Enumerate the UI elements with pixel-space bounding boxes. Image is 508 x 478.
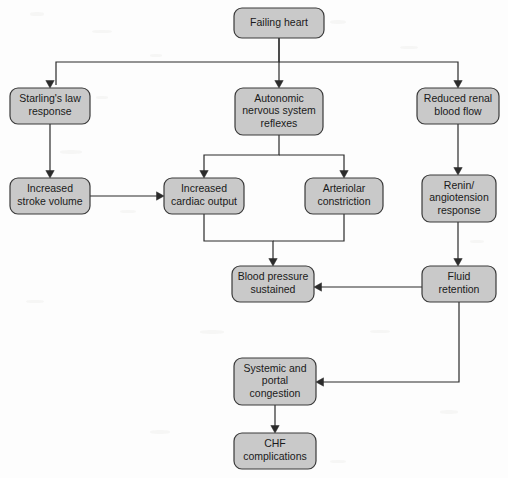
node-label-line: stroke volume (17, 195, 83, 207)
flowchart-canvas: Failing heartStarling's lawresponseAuton… (0, 0, 508, 478)
node-label-line: sustained (251, 283, 296, 295)
node-autonomic-nervous-system-reflexes[interactable]: Autonomicnervous systemreflexes (235, 88, 323, 135)
node-label-line: nervous system (242, 104, 316, 116)
node-label-line: response (437, 204, 480, 216)
node-reduced-renal-blood-flow[interactable]: Reduced renalblood flow (417, 88, 499, 124)
node-arteriolar-constriction[interactable]: Arteriolarconstriction (305, 178, 383, 214)
arrowhead (46, 81, 54, 89)
edge-increased-stroke-volume-to-increased-cardiac-output (90, 192, 164, 200)
node-label-line: reflexes (261, 117, 298, 129)
node-fluid-retention[interactable]: Fluidretention (422, 266, 496, 302)
flowchart-diagram: Failing heartStarling's lawresponseAuton… (0, 0, 508, 478)
arrowhead (157, 192, 165, 200)
node-label-line: cardiac output (171, 195, 237, 207)
node-label-line: Arteriolar (323, 182, 366, 194)
node-label-line: Failing heart (250, 16, 308, 28)
edge-line (204, 214, 273, 263)
arrowhead (316, 378, 324, 386)
arrowhead (275, 81, 283, 89)
edge-fluid-retention-to-blood-pressure (314, 283, 422, 291)
node-renin-angiotension-response[interactable]: Renin/angiotensionresponse (422, 175, 496, 222)
edge-renin-response-to-fluid-retention (454, 222, 462, 266)
edge-line (279, 62, 458, 85)
edge-increased-cardiac-output-to-blood-pressure (204, 214, 277, 266)
node-label-line: response (28, 105, 71, 117)
node-label-line: angiotension (429, 191, 489, 203)
edge-autonomic-reflexes-to-increased-cardiac-output (200, 135, 279, 178)
node-starlings-law-response[interactable]: Starling's lawresponse (10, 88, 90, 124)
node-label-line: retention (439, 283, 480, 295)
edge-arteriolar-constriction-to-blood-pressure (273, 214, 344, 241)
edge-fluid-retention-to-systemic-portal-congestion (316, 302, 459, 386)
edge-systemic-congestion-to-chf-complications (271, 405, 279, 433)
node-label-line: Autonomic (254, 92, 304, 104)
node-label-line: complications (243, 450, 307, 462)
node-label-line: Blood pressure (238, 270, 309, 282)
node-increased-cardiac-output[interactable]: Increasedcardiac output (164, 178, 244, 214)
node-label-line: Increased (27, 182, 73, 194)
arrowhead (340, 171, 348, 179)
node-label-line: CHF (264, 437, 286, 449)
node-label-line: Fluid (448, 270, 471, 282)
arrowhead (269, 259, 277, 267)
node-label-line: Starling's law (19, 92, 81, 104)
edge-line (319, 302, 459, 382)
node-label-line: constriction (317, 195, 370, 207)
arrowhead (454, 81, 462, 89)
node-label-line: portal (262, 374, 288, 386)
node-increased-stroke-volume[interactable]: Increasedstroke volume (10, 178, 90, 214)
arrowhead (454, 259, 462, 267)
edge-starlings-law-to-increased-stroke-volume (46, 124, 54, 178)
node-label-line: Increased (181, 182, 227, 194)
node-blood-pressure-sustained[interactable]: Blood pressuresustained (232, 266, 314, 302)
node-label-line: Systemic and (243, 362, 306, 374)
node-label-line: Reduced renal (424, 92, 492, 104)
arrowhead (271, 426, 279, 434)
edge-failing-heart-to-starlings-law (46, 38, 279, 88)
node-systemic-and-portal-congestion[interactable]: Systemic andportalcongestion (234, 358, 316, 405)
edge-line (279, 155, 344, 175)
node-chf-complications[interactable]: CHFcomplications (234, 433, 316, 469)
node-label-line: Renin/ (444, 179, 474, 191)
node-label-line: congestion (250, 387, 301, 399)
edge-line (273, 214, 344, 241)
node-failing-heart[interactable]: Failing heart (234, 8, 324, 38)
edge-reduced-renal-blood-flow-to-renin-response (454, 124, 462, 175)
edge-autonomic-reflexes-to-arteriolar-constriction (279, 155, 348, 178)
arrowhead (454, 168, 462, 176)
arrowhead (314, 283, 322, 291)
nodes-layer: Failing heartStarling's lawresponseAuton… (10, 8, 499, 469)
arrowhead (200, 171, 208, 179)
edge-line (204, 135, 279, 175)
edge-failing-heart-to-autonomic-reflexes (275, 38, 283, 88)
edge-line (56, 38, 279, 85)
node-label-line: blood flow (434, 105, 482, 117)
arrowhead (46, 171, 54, 179)
edge-failing-heart-to-reduced-renal-blood-flow (279, 62, 462, 88)
